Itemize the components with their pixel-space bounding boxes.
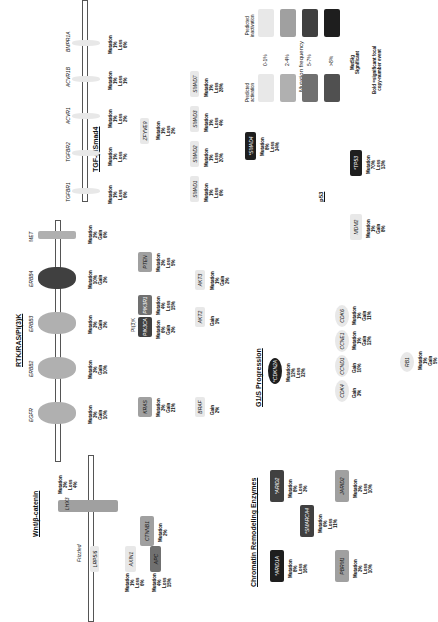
stat-smarca4: Mutation 6% Loss 11% — [318, 514, 338, 533]
gene-erbb3: ERBB3 — [28, 316, 34, 332]
stat-cdk4: Gain 3% — [352, 388, 362, 398]
receptor-tgfbr2 — [72, 150, 100, 156]
box-akt2: AKT2 — [195, 307, 205, 327]
legend-swatch-inact-1 — [280, 9, 296, 37]
ellipse-rb1: RB1 — [400, 352, 414, 372]
figure-page: TGF-β/Smad4 TGFBR1 TGFBR2 ACVR1 ACVR1B B… — [0, 0, 438, 622]
stat-tgfbr1: Mutation 1% Loss 6% — [108, 185, 128, 204]
stat-smad3: Mutation 1% Loss 4% — [204, 113, 224, 132]
box-kras: KRAS — [138, 397, 152, 417]
stat-acvr1: Mutation 1% Loss 2% — [108, 109, 128, 128]
gene-bmpr1a: BMPR1A — [65, 31, 71, 52]
g1s-title: G1/S Progression — [255, 348, 262, 407]
box-apc: APC — [150, 546, 161, 572]
tgf-membrane — [82, 0, 88, 202]
stat-tgfbr2: Mutation 1% Loss 7% — [108, 147, 128, 166]
receptor-bmpr1a — [72, 40, 100, 46]
ellipse-cdk6: CDK6 — [335, 305, 349, 327]
stat-pten: Mutation 3% Loss 5% — [156, 253, 176, 272]
receptor-acvr1b — [72, 76, 100, 82]
gene-acvr1b: ACVR1B — [65, 67, 71, 87]
gene-lhx3: LHX3 — [64, 497, 70, 510]
box-jarid2: JARID2 — [335, 470, 349, 502]
stat-acvr1b: Mutation 1% Loss 1% — [108, 71, 128, 90]
box-axin1: AXIN1 — [125, 546, 136, 572]
ellipse-ccne1: CCNE1 — [335, 330, 349, 352]
stat-smad7: Mutation 1% Loss 28% — [204, 78, 224, 97]
legend-star-note: MutSig Significant — [350, 51, 360, 74]
box-smad2: SMAD2 — [190, 141, 199, 167]
stat-zfyve9: Mutation 1% Loss 2% — [156, 121, 176, 140]
chromatin-title: Chromatin Remodeling Enzymes — [250, 478, 257, 587]
box-arid1a: *ARID1A — [270, 550, 284, 582]
stat-tp53: Mutation 70% Loss 13% — [366, 155, 386, 174]
stat-erbb3: Mutation 3% Gain 2% — [88, 315, 108, 334]
legend-swatch-inact-3 — [324, 9, 340, 37]
receptor-erbb4 — [38, 267, 76, 289]
stat-ccne1: Mutation 1% Gain 12% — [352, 331, 372, 350]
stat-jarid2: Mutation 3% Loss 10% — [353, 479, 373, 498]
legend-swatch-inact-0 — [258, 9, 274, 37]
stat-braf: Gain 2% — [210, 405, 220, 415]
stat-lhx3: Mutation 3% Loss 4% — [58, 475, 78, 494]
wnt-membrane — [88, 455, 94, 622]
pi3k-label: PI(3)K — [130, 318, 136, 332]
stat-erbb2: Mutation 3% Gain 10% — [88, 360, 108, 379]
box-mdm2: MDM2 — [350, 214, 362, 240]
receptor-met — [38, 231, 76, 239]
stat-mdm2: Mutation 1% Gain 8% — [366, 219, 386, 238]
stat-smad1: Mutation 1% Loss 6% — [204, 183, 224, 202]
box-smad3: SMAD3 — [190, 106, 199, 132]
receptor-erbb2 — [38, 357, 76, 379]
label-frizzled: Frizzled — [76, 544, 82, 562]
stat-apc: Mutation 4% Loss 15% — [152, 573, 172, 592]
legend-swatch-act-0 — [258, 74, 274, 102]
ellipse-cdkn2a: *CDKN2A — [268, 358, 282, 384]
stat-bmpr1a: Mutation 1% Loss 6% — [108, 35, 128, 54]
stat-arid1a: Mutation 8% Loss 16% — [288, 559, 308, 578]
legend-right-label: Predicted inactivation — [245, 14, 255, 37]
box-arid2: *ARID2 — [270, 470, 284, 502]
legend-range-0: 0-1% — [262, 54, 268, 66]
stat-pbrm1: Mutation 3% Loss 10% — [353, 559, 373, 578]
box-smad1: SMAD1 — [190, 176, 199, 202]
wnt-title: Wnt/β-catenin — [32, 491, 39, 537]
receptor-erbb3 — [38, 312, 76, 334]
box-smad7: SMAD7 — [190, 71, 199, 97]
rotated-diagram: TGF-β/Smad4 TGFBR1 TGFBR2 ACVR1 ACVR1B B… — [0, 0, 438, 622]
stat-axin1: Mutation 1% Loss 6% — [125, 573, 145, 592]
box-akt3: AKT3 — [195, 270, 205, 290]
stat-cdkn2a: Mutation 12% Loss 32% — [286, 363, 306, 382]
stat-egfr: Mutation 3% Gain 10% — [88, 405, 108, 424]
stat-erbb4: Mutation 10% Gain 2% — [88, 270, 108, 289]
stat-pik3r1: Mutation 4% Loss 15% — [156, 296, 176, 315]
gene-erbb2: ERBB2 — [28, 361, 34, 377]
box-pik3r1: PIK3R1 — [138, 295, 152, 315]
stat-akt2: Gain 1% — [210, 316, 220, 326]
rtk-title: RTK/RAS/PI(3)K — [15, 314, 22, 367]
stat-cdk6: Mutation 1% Gain 11% — [352, 306, 372, 325]
stat-ccnd1: Gain 10% — [352, 363, 362, 373]
ellipse-cdk4: CDK4 — [335, 380, 349, 402]
stat-ctnnb1: Mutation 2% — [158, 523, 168, 542]
legend-swatch-act-1 — [280, 74, 296, 102]
receptor-tgfbr1 — [72, 188, 100, 194]
gene-tgfbr2: TGFBR2 — [65, 142, 71, 162]
stat-pik3ca: Mutation 6% Gain 3% — [156, 320, 176, 339]
legend-bold-note: Bold =significant focal copy-number even… — [372, 46, 382, 94]
p53-title: p53 — [318, 192, 324, 202]
box-braf: BRAF — [195, 397, 205, 417]
box-tp53: *TP53 — [350, 150, 362, 176]
box-ctnnb1: CTNNB1 — [140, 516, 154, 546]
box-pbrm1: PBRM1 — [335, 550, 349, 582]
box-zfyve9: ZFYVE9 — [140, 118, 149, 144]
legend-left-label: Predicted activation — [245, 83, 255, 102]
box-pik3ca: PIK3CA — [138, 317, 152, 337]
stat-akt3: Mutation 1% Gain 2% — [210, 271, 230, 290]
legend-range-1: 2-4% — [284, 54, 290, 66]
stat-met: Mutation 2% Gain 6% — [88, 225, 108, 244]
legend-range-2: 5-7% — [306, 54, 312, 66]
legend-swatch-inact-2 — [302, 9, 318, 37]
box-lrp56: LRP5/6 — [90, 546, 99, 572]
gene-tgfbr1: TGFBR1 — [65, 182, 71, 202]
